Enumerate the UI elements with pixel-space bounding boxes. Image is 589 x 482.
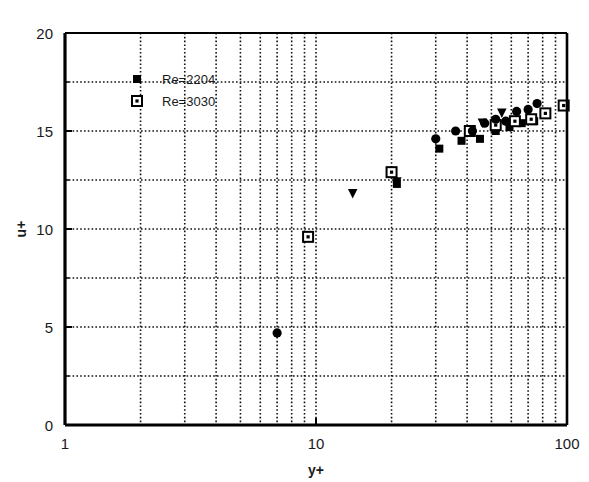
marker-center-dot bbox=[135, 99, 138, 102]
marker-center-dot bbox=[513, 120, 516, 123]
x-tick-label: 100 bbox=[554, 435, 579, 452]
x-axis-title: y+ bbox=[308, 462, 324, 478]
x-tick-label: 10 bbox=[308, 435, 325, 452]
marker-filled-circle bbox=[512, 107, 521, 116]
marker-center-dot bbox=[562, 104, 565, 107]
y-tick-label: 20 bbox=[36, 25, 53, 42]
marker-filled-square bbox=[476, 135, 484, 143]
chart-figure: 05101520110100y+u+Re=2204Re=3030 bbox=[0, 0, 589, 482]
marker-filled-circle bbox=[491, 115, 500, 124]
marker-open-square-dot bbox=[526, 114, 536, 124]
marker-filled-circle bbox=[431, 134, 440, 143]
marker-center-dot bbox=[494, 124, 497, 127]
marker-center-dot bbox=[544, 112, 547, 115]
marker-open-square-dot bbox=[540, 108, 550, 118]
y-tick-label: 5 bbox=[45, 319, 53, 336]
marker-open-square-dot bbox=[387, 167, 397, 177]
marker-center-dot bbox=[306, 235, 309, 238]
marker-filled-circle bbox=[524, 105, 533, 114]
marker-filled-circle bbox=[451, 126, 460, 135]
marker-open-square-dot bbox=[132, 96, 142, 106]
marker-center-dot bbox=[390, 171, 393, 174]
x-tick-label: 1 bbox=[61, 435, 69, 452]
marker-filled-square bbox=[133, 75, 141, 83]
marker-filled-circle bbox=[468, 126, 477, 135]
y-tick-label: 10 bbox=[36, 221, 53, 238]
marker-filled-square bbox=[435, 145, 443, 153]
legend-label-0: Re=2204 bbox=[162, 72, 215, 87]
marker-filled-circle bbox=[501, 117, 510, 126]
marker-center-dot bbox=[530, 118, 533, 121]
y-tick-label: 0 bbox=[45, 417, 53, 434]
marker-filled-circle bbox=[532, 99, 541, 108]
chart-svg: 05101520110100y+u+Re=2204Re=3030 bbox=[0, 0, 589, 482]
y-tick-label: 15 bbox=[36, 123, 53, 140]
y-axis-title: u+ bbox=[13, 221, 29, 238]
legend-label-1: Re=3030 bbox=[162, 94, 215, 109]
marker-open-square-dot bbox=[303, 232, 313, 242]
marker-filled-square bbox=[458, 137, 466, 145]
marker-filled-circle bbox=[273, 328, 282, 337]
marker-open-square-dot bbox=[510, 116, 520, 126]
